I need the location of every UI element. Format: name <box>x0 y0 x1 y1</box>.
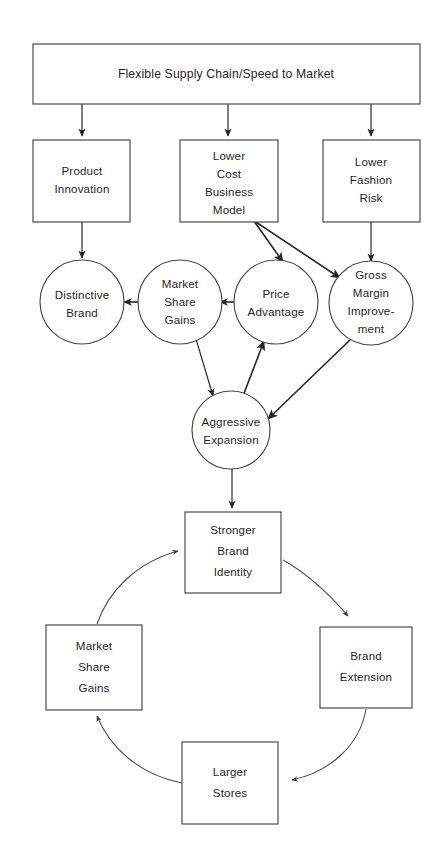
node-price-advantage-shape[interactable] <box>234 260 318 344</box>
node-stronger-brand-identity-label-line3: Identity <box>214 565 253 578</box>
node-gross-margin-improvement[interactable]: Gross Margin Improve- ment <box>329 261 413 345</box>
node-larger-stores[interactable]: Larger Stores <box>182 742 278 824</box>
node-distinctive-brand-label-line2: Brand <box>66 306 98 319</box>
edge-market-share-gains-to-stronger-brand-identity <box>97 551 178 624</box>
node-gross-margin-improvement-label-line3: Improve- <box>348 304 395 317</box>
node-flexible-supply-chain-label: Flexible Supply Chain/Speed to Market <box>118 67 335 81</box>
node-price-advantage[interactable]: Price Advantage <box>234 260 318 344</box>
node-larger-stores-label-line2: Stores <box>213 786 247 799</box>
edge-gross-margin-to-aggressive-expansion <box>268 339 351 419</box>
node-lower-fashion-risk-label-line2: Fashion <box>350 173 392 186</box>
node-larger-stores-shape[interactable] <box>182 742 278 824</box>
strategy-flow-diagram: Flexible Supply Chain/Speed to Market Pr… <box>0 0 445 862</box>
node-brand-extension-label-line2: Extension <box>340 670 392 683</box>
node-lower-cost-business-model-label-line1: Lower <box>213 149 245 162</box>
node-distinctive-brand[interactable]: Distinctive Brand <box>40 260 124 344</box>
edge-brand-extension-to-larger-stores <box>292 709 366 780</box>
node-lower-cost-business-model-label-line2: Cost <box>217 167 242 180</box>
node-aggressive-expansion-shape[interactable] <box>192 391 270 469</box>
node-stronger-brand-identity[interactable]: Stronger Brand Identity <box>185 512 281 593</box>
node-lower-fashion-risk-label-line3: Risk <box>359 191 382 204</box>
edge-aggressive-expansion-to-price-advantage <box>243 341 264 396</box>
node-lower-fashion-risk[interactable]: Lower Fashion Risk <box>323 140 420 222</box>
node-market-share-gains-circle[interactable]: Market Share Gains <box>138 260 222 344</box>
edge-stronger-brand-identity-to-brand-extension <box>283 560 348 616</box>
node-distinctive-brand-shape[interactable] <box>40 260 124 344</box>
node-aggressive-expansion-label-line1: Aggressive <box>202 415 261 428</box>
node-flexible-supply-chain[interactable]: Flexible Supply Chain/Speed to Market <box>33 44 420 104</box>
node-price-advantage-label-line1: Price <box>262 287 289 300</box>
node-stronger-brand-identity-label-line1: Stronger <box>210 523 256 536</box>
node-lower-fashion-risk-label-line1: Lower <box>355 155 387 168</box>
node-larger-stores-label-line1: Larger <box>213 765 247 778</box>
node-aggressive-expansion-label-line2: Expansion <box>203 433 259 446</box>
node-brand-extension-shape[interactable] <box>320 627 412 708</box>
node-lower-cost-business-model[interactable]: Lower Cost Business Model <box>180 140 278 222</box>
node-product-innovation[interactable]: Product Innovation <box>33 140 130 222</box>
node-market-share-gains-box-label-line3: Gains <box>78 681 109 694</box>
node-gross-margin-improvement-label-line2: Margin <box>353 286 389 299</box>
edge-larger-stores-to-market-share-gains <box>97 716 182 783</box>
node-stronger-brand-identity-label-line2: Brand <box>217 544 249 557</box>
node-product-innovation-shape[interactable] <box>33 140 130 222</box>
node-market-share-gains-circle-label-line3: Gains <box>164 313 195 326</box>
node-price-advantage-label-line2: Advantage <box>248 305 305 318</box>
node-market-share-gains-box-label-line2: Share <box>78 660 110 673</box>
node-product-innovation-label-line2: Innovation <box>54 182 109 195</box>
node-market-share-gains-circle-label-line2: Share <box>164 295 196 308</box>
node-market-share-gains-box[interactable]: Market Share Gains <box>46 625 142 710</box>
node-brand-extension-label-line1: Brand <box>350 649 382 662</box>
node-lower-cost-business-model-label-line3: Business <box>205 185 253 198</box>
node-aggressive-expansion[interactable]: Aggressive Expansion <box>192 391 270 469</box>
node-market-share-gains-box-label-line1: Market <box>76 639 113 652</box>
node-product-innovation-label-line1: Product <box>61 164 103 177</box>
edge-lowercost-to-price-advantage <box>254 221 283 262</box>
node-gross-margin-improvement-label-line4: ment <box>358 322 385 335</box>
node-brand-extension[interactable]: Brand Extension <box>320 627 412 708</box>
node-lower-cost-business-model-label-line4: Model <box>213 203 245 216</box>
node-distinctive-brand-label-line1: Distinctive <box>55 288 109 301</box>
edge-marketshare-to-aggressive-expansion <box>196 339 213 396</box>
node-market-share-gains-circle-label-line1: Market <box>162 277 199 290</box>
node-gross-margin-improvement-label-line1: Gross <box>355 268 387 281</box>
